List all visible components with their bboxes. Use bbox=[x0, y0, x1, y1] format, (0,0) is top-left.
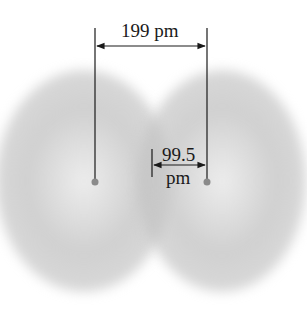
diatomic-molecule-diagram: 199 pm 99.5 pm bbox=[0, 0, 307, 309]
radius-unit-label: pm bbox=[166, 168, 190, 187]
radius-value-label: 99.5 bbox=[162, 145, 195, 164]
right-nucleus-dot bbox=[204, 179, 211, 186]
left-nucleus-dot bbox=[92, 179, 99, 186]
dimension-lines bbox=[0, 0, 307, 309]
bond-length-label: 199 pm bbox=[121, 21, 179, 40]
